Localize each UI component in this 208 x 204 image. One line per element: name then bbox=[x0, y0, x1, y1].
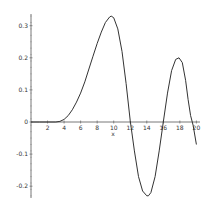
axes bbox=[31, 14, 200, 198]
x-tick-label: 6 bbox=[79, 124, 83, 131]
y-ticks: 0.30.20.10-0.1-0.2 bbox=[16, 16, 32, 196]
x-tick-label: 4 bbox=[62, 124, 66, 131]
x-tick-label: 12 bbox=[126, 124, 134, 131]
y-tick-label: 0.2 bbox=[18, 54, 28, 61]
x-tick-label: 8 bbox=[95, 124, 99, 131]
x-tick-label: 18 bbox=[176, 124, 184, 131]
y-tick-label: 0.3 bbox=[18, 22, 28, 29]
x-tick-label: 2 bbox=[46, 124, 50, 131]
y-tick-label: 0.1 bbox=[18, 86, 28, 93]
x-axis-label: x bbox=[111, 130, 115, 137]
y-tick-label: -0.2 bbox=[16, 182, 28, 189]
y-tick-label: 0 bbox=[24, 118, 28, 125]
data-line bbox=[31, 16, 196, 196]
y-tick-label: -0.1 bbox=[16, 150, 28, 157]
x-tick-label: 14 bbox=[143, 124, 151, 131]
line-chart: 2468101214161820 0.30.20.10-0.1-0.2 x bbox=[0, 0, 208, 204]
x-tick-label: 16 bbox=[159, 124, 167, 131]
